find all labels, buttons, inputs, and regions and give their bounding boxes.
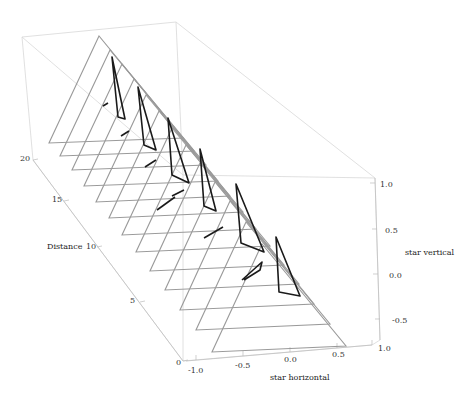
distance-tick-label: 5 xyxy=(130,296,135,305)
horizontal-tick-label: 0.5 xyxy=(332,350,345,359)
distance-tick-label: 20 xyxy=(20,154,30,163)
horizontal-tick-label: 0.0 xyxy=(284,355,297,364)
horizontal-axis-title: star horizontal xyxy=(270,373,330,382)
horizontal-tick-label: -1.0 xyxy=(188,366,203,375)
3d-plot[interactable] xyxy=(0,0,461,397)
vertical-tick-label: 0.0 xyxy=(389,271,402,280)
distance-tick-label: 15 xyxy=(52,195,62,204)
vertical-axis-title: star vertical xyxy=(405,248,454,257)
distance-tick-label: 10 xyxy=(86,242,96,251)
distance-tick-label: 0 xyxy=(176,358,181,367)
bounding-box xyxy=(22,22,380,361)
reference-triangles xyxy=(49,36,346,352)
vertical-tick-label: 0.5 xyxy=(385,226,398,235)
horizontal-tick-label: 1.0 xyxy=(378,344,391,353)
horizontal-tick-label: -0.5 xyxy=(235,361,250,370)
vertical-tick-label: -0.5 xyxy=(392,316,407,325)
distance-axis-title: Distance xyxy=(47,242,82,251)
vertical-axis xyxy=(370,178,380,340)
vertical-tick-label: 1.0 xyxy=(380,180,393,189)
